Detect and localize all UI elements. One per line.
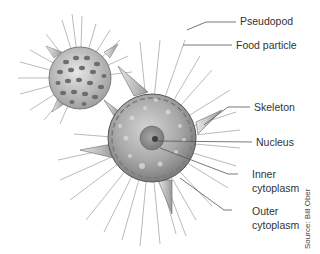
pseudopod-leader	[187, 22, 236, 30]
label-nucleus: Nucleus	[256, 136, 294, 148]
label-inner-cytoplasm: cytoplasm	[252, 182, 299, 194]
label-outer: Outer	[252, 205, 278, 217]
label-skeleton: Skeleton	[254, 101, 295, 113]
source-credit: Source: Bill Ober	[303, 189, 312, 249]
nucleus	[140, 126, 164, 150]
radiolarian-diagram: Pseudopod Food particle Skeleton Nucleus…	[0, 0, 320, 254]
label-pseudopod: Pseudopod	[240, 15, 293, 27]
label-outer-cytoplasm: cytoplasm	[252, 219, 299, 231]
label-inner: Inner	[252, 168, 276, 180]
label-food-particle: Food particle	[236, 39, 297, 51]
